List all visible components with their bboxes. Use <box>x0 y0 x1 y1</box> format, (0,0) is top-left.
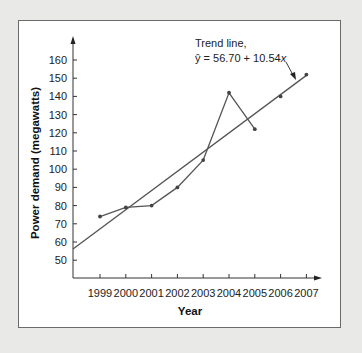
data-point <box>227 91 231 95</box>
y-tick-label: 50 <box>55 254 67 266</box>
axes <box>71 36 323 281</box>
y-tick-label: 160 <box>49 54 67 66</box>
data-point <box>176 186 180 190</box>
annotation-pointer <box>286 62 293 75</box>
annotation-line1: Trend line, <box>195 37 247 49</box>
annotation-line2: ŷ = 56.70 + 10.54x <box>195 52 287 64</box>
y-axis-title: Power demand (megawatts) <box>29 87 41 239</box>
y-tick-label: 90 <box>55 181 67 193</box>
data-point <box>150 204 154 208</box>
y-axis-arrow-icon <box>71 36 76 44</box>
x-tick-label: 2000 <box>114 287 138 299</box>
x-tick-label: 2004 <box>217 287 241 299</box>
y-tick-label: 110 <box>49 145 67 157</box>
annotation-arrowhead-icon <box>290 72 296 80</box>
x-tick-label: 2001 <box>139 287 163 299</box>
line-chart: 5060708090100110120130140150160 19992000… <box>0 0 362 353</box>
y-tick-label: 120 <box>49 127 67 139</box>
x-axis-title: Year <box>178 305 203 317</box>
demand-line <box>100 93 255 217</box>
y-tick-label: 140 <box>49 90 67 102</box>
x-axis-arrow-icon <box>314 276 322 281</box>
x-tick-label: 2002 <box>165 287 189 299</box>
annotation-variable: x <box>280 52 287 64</box>
data-point <box>201 158 205 162</box>
x-tick-label: 1999 <box>88 287 112 299</box>
data-point <box>279 95 283 99</box>
trend-line <box>73 75 306 249</box>
data-point <box>305 73 309 77</box>
y-tick-label: 150 <box>49 72 67 84</box>
x-tick-label: 2003 <box>191 287 215 299</box>
trend-annotation: Trend line, ŷ = 56.70 + 10.54x <box>195 37 296 80</box>
x-tick-label: 2007 <box>294 287 318 299</box>
x-tick-label: 2006 <box>268 287 292 299</box>
y-tick-label: 60 <box>55 236 67 248</box>
data-point <box>253 127 257 131</box>
y-tick-label: 80 <box>55 200 67 212</box>
data-series <box>73 73 308 249</box>
annotation-equation: ŷ = 56.70 + 10.54 <box>195 52 281 64</box>
data-point <box>98 215 102 219</box>
y-tick-label: 130 <box>49 109 67 121</box>
x-tick-label: 2005 <box>243 287 267 299</box>
y-tick-label: 100 <box>49 163 67 175</box>
y-tick-label: 70 <box>55 218 67 230</box>
data-point <box>124 206 128 210</box>
